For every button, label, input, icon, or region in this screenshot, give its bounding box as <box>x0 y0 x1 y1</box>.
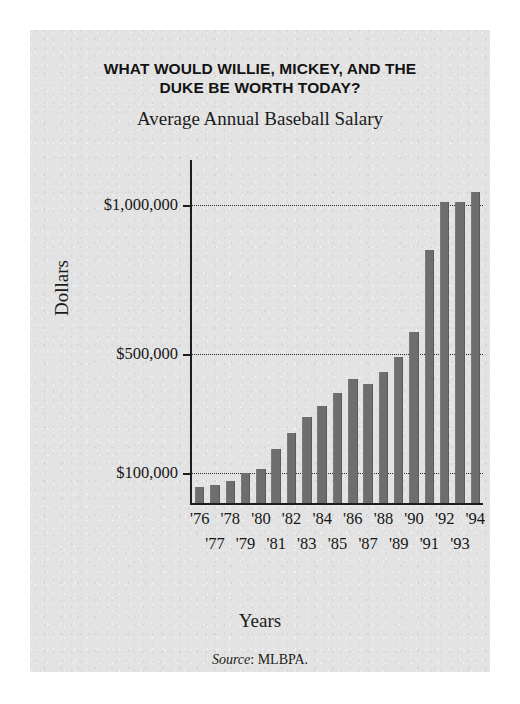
x-tick-label-y93: '93 <box>450 534 469 554</box>
figure-panel: WHAT WOULD WILLIE, MICKEY, AND THE DUKE … <box>30 30 490 672</box>
bar-series <box>192 160 483 503</box>
bar-y87 <box>363 384 372 503</box>
scanned-page: WHAT WOULD WILLIE, MICKEY, AND THE DUKE … <box>0 0 520 704</box>
x-tick-label-y86: '86 <box>343 509 362 529</box>
y-tick-100000 <box>183 473 192 475</box>
x-tick-label-y78: '78 <box>221 509 240 529</box>
y-tick-1000000 <box>183 205 192 207</box>
bar-y92 <box>440 202 449 503</box>
x-tick-label-y85: '85 <box>328 534 347 554</box>
bar-y85 <box>333 393 342 503</box>
x-axis-line <box>190 503 483 505</box>
source-label: Source <box>212 652 250 667</box>
x-tick-label-y84: '84 <box>312 509 331 529</box>
y-axis-label-500000: $500,000 <box>116 344 178 364</box>
x-axis-title: Years <box>30 610 490 632</box>
bar-y90 <box>409 332 418 503</box>
x-tick-label-y92: '92 <box>435 509 454 529</box>
bar-y79 <box>241 473 250 503</box>
bar-y83 <box>302 417 311 503</box>
bar-y82 <box>287 433 296 503</box>
y-axis-label-100000: $100,000 <box>116 463 178 483</box>
bar-y80 <box>256 469 265 503</box>
chart-headline-line-1: WHAT WOULD WILLIE, MICKEY, AND THE <box>30 59 490 78</box>
bar-y89 <box>394 357 403 503</box>
chart-title-block: WHAT WOULD WILLIE, MICKEY, AND THE DUKE … <box>30 59 490 97</box>
x-tick-label-y79: '79 <box>236 534 255 554</box>
x-tick-label-y82: '82 <box>282 509 301 529</box>
bar-y84 <box>317 406 326 503</box>
x-tick-label-y87: '87 <box>358 534 377 554</box>
bar-y81 <box>271 449 280 503</box>
x-tick-label-y83: '83 <box>297 534 316 554</box>
bar-y88 <box>379 372 388 503</box>
x-tick-label-y90: '90 <box>404 509 423 529</box>
bar-y86 <box>348 379 357 503</box>
x-tick-label-y76: '76 <box>190 509 209 529</box>
x-tick-label-y94: '94 <box>466 509 485 529</box>
y-axis-title: Dollars <box>51 276 73 316</box>
bar-y94 <box>471 192 480 503</box>
plot-area: $100,000$500,000$1,000,000 '76'78'80'82'… <box>190 160 483 505</box>
bar-y76 <box>195 487 204 503</box>
bar-y91 <box>425 250 434 503</box>
x-tick-label-y91: '91 <box>420 534 439 554</box>
source-note: Source: MLBPA. <box>30 652 490 668</box>
chart-subtitle: Average Annual Baseball Salary <box>30 108 490 130</box>
bar-y78 <box>226 481 235 503</box>
x-tick-label-y77: '77 <box>205 534 224 554</box>
x-tick-label-y89: '89 <box>389 534 408 554</box>
x-tick-label-y80: '80 <box>251 509 270 529</box>
chart-headline-line-2: DUKE BE WORTH TODAY? <box>30 78 490 97</box>
x-tick-label-y88: '88 <box>374 509 393 529</box>
bar-y93 <box>455 202 464 503</box>
x-tick-label-y81: '81 <box>266 534 285 554</box>
y-tick-500000 <box>183 354 192 356</box>
y-axis-label-1000000: $1,000,000 <box>104 195 178 215</box>
bar-y77 <box>210 485 219 503</box>
source-value: : MLBPA. <box>250 652 308 667</box>
